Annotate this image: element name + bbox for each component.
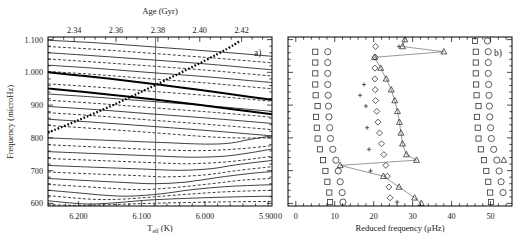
panel-a-y-tick-label: 600 — [31, 199, 43, 208]
panel-a-y-tick-label: 700 — [31, 167, 43, 176]
panel-b-x-tick-label: 10 — [331, 212, 339, 221]
panel-a-y-tick-label: 1.100 — [25, 36, 43, 45]
panel-a-x-tick-label: 6.100 — [132, 212, 150, 221]
reduced-freq-unit: (μHz) — [424, 223, 444, 233]
panel-b-x-tick-label: 0 — [294, 212, 298, 221]
figure-root: 6.2006.1006.0005.9002.342.362.382.402.42… — [0, 0, 520, 240]
panel-b-x-tick-label: 50 — [486, 212, 494, 221]
teff-unit: (K) — [161, 223, 173, 233]
panel-b-x-tick-label: 20 — [370, 212, 378, 221]
panel-a-label: a) — [254, 48, 261, 59]
panel-a-top-tick-label: 2.42 — [234, 26, 248, 35]
panel-a-top-axis-title: Age (Gyr) — [142, 6, 178, 16]
panel-b-origin-tick-label: 0 — [278, 212, 282, 221]
panel-a-y-tick-label: 1.000 — [25, 68, 43, 77]
panel-a-x-tick-label: 6.000 — [196, 212, 214, 221]
panel-a-top-tick-label: 2.40 — [193, 26, 207, 35]
panel-b-x-tick-label: 40 — [448, 212, 456, 221]
figure-svg: 6.2006.1006.0005.9002.342.362.382.402.42… — [0, 0, 520, 240]
panel-b-x-axis-title: Reduced frequency (μHz) — [355, 223, 444, 233]
panel-a-y-tick-label: 900 — [31, 101, 43, 110]
panel-a-top-tick-label: 2.38 — [151, 26, 165, 35]
panel-a-top-tick-label: 2.34 — [67, 26, 81, 35]
panel-a-y-tick-label: 800 — [31, 134, 43, 143]
panel-a-x-axis-title: Teff (K) — [147, 223, 173, 234]
panel-a-x-tick-label: 6.200 — [69, 212, 87, 221]
panel-b-label: b) — [494, 48, 502, 59]
panel-b-x-tick-label: 30 — [409, 212, 417, 221]
panel-a-x-tick-label: 5.900 — [259, 212, 277, 221]
panel-a-top-tick-label: 2.36 — [109, 26, 123, 35]
panel-a-y-axis-title: Frequency (microHz) — [5, 85, 15, 159]
reduced-freq-text: Reduced frequency — [355, 223, 422, 233]
